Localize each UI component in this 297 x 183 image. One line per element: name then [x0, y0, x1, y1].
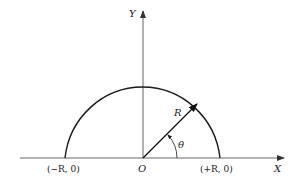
origin-label: O [138, 163, 146, 174]
right-point-label: (+R, 0) [200, 164, 233, 174]
left-point-label: (−R, 0) [47, 164, 80, 174]
x-axis-label: X [273, 163, 282, 174]
theta-label: θ [178, 139, 184, 150]
radius-label: R [173, 107, 182, 118]
semicircle-diagram: Y X O R θ (−R, 0) (+R, 0) [0, 0, 297, 183]
y-axis-label: Y [129, 8, 137, 19]
radius-vector [143, 104, 197, 158]
semicircle-arc [65, 87, 220, 158]
theta-arc [168, 135, 177, 158]
